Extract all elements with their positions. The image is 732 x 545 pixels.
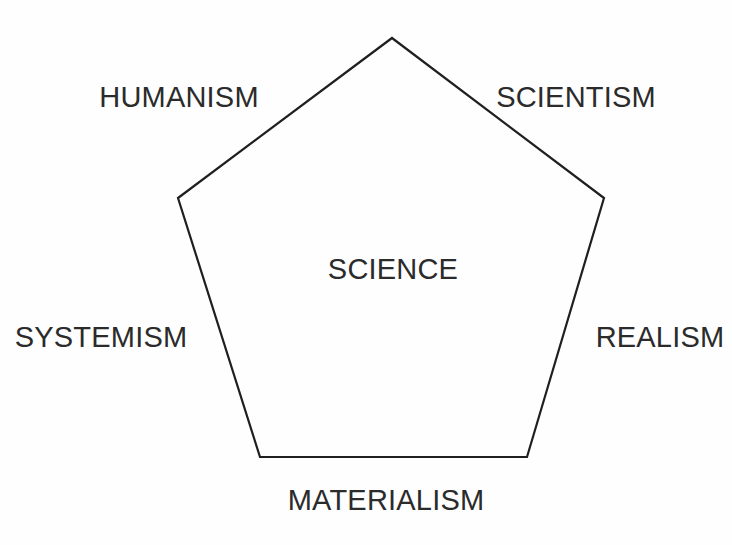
center-label-science: SCIENCE — [328, 255, 458, 284]
vertex-label-realism: REALISM — [596, 323, 725, 352]
vertex-label-materialism: MATERIALISM — [288, 486, 485, 515]
diagram-canvas: HUMANISM SCIENTISM SYSTEMISM REALISM MAT… — [0, 0, 732, 545]
vertex-label-humanism: HUMANISM — [99, 83, 259, 112]
vertex-label-scientism: SCIENTISM — [496, 83, 656, 112]
vertex-label-systemism: SYSTEMISM — [15, 323, 188, 352]
